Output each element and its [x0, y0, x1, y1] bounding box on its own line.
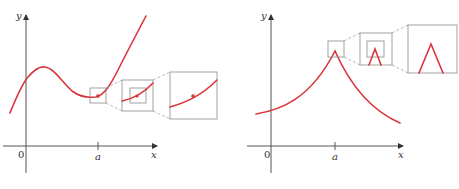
right-zoom-box-2	[360, 33, 392, 65]
left-origin-label: 0	[18, 149, 24, 160]
right-figure: y 0 a x	[247, 10, 457, 173]
right-origin-label: 0	[264, 149, 270, 160]
left-smooth-curve	[10, 16, 146, 113]
left-a-label: a	[95, 151, 101, 162]
left-x-label: x	[151, 149, 157, 160]
right-y-label: y	[260, 10, 267, 21]
left-figure: y 0 a x	[3, 10, 217, 173]
left-point-a	[96, 94, 100, 98]
right-x-label: x	[398, 149, 404, 160]
left-y-label: y	[15, 10, 22, 21]
right-corner-curve	[256, 51, 400, 123]
figure-canvas: y 0 a x y 0 a x	[0, 0, 459, 189]
right-a-label: a	[332, 151, 338, 162]
